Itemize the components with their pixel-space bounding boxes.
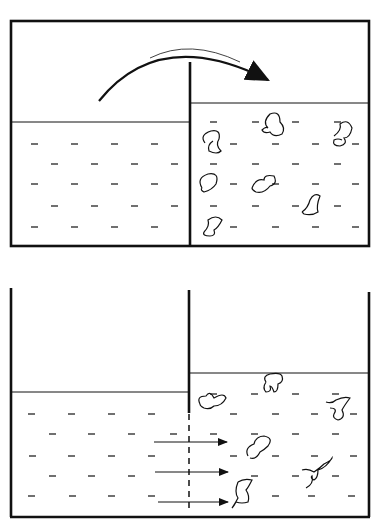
bottom-left-solvent-dashes — [28, 414, 177, 496]
top-panel — [11, 21, 369, 246]
bottom-solute-particles — [199, 373, 350, 508]
top-left-solvent-dashes — [31, 144, 178, 227]
bottom-panel — [10, 288, 370, 517]
osmosis-diagram — [0, 0, 376, 520]
top-solute-particles — [200, 113, 352, 236]
curved-transfer-arrow — [99, 57, 268, 101]
flow-arrows — [154, 442, 228, 502]
top-right-solution-dashes — [210, 122, 359, 227]
